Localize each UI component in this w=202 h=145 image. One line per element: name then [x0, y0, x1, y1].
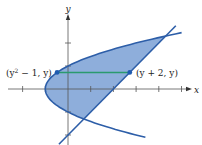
region-diagram: x y (y2 − 1, y) (y + 2, y) [0, 0, 202, 145]
left-point-label: (y2 − 1, y) [6, 67, 52, 79]
left-point [55, 70, 60, 75]
y-axis-label: y [65, 4, 72, 14]
right-point-label: (y + 2, y) [136, 68, 178, 78]
x-axis-label: x [194, 85, 199, 95]
right-point [127, 70, 132, 75]
